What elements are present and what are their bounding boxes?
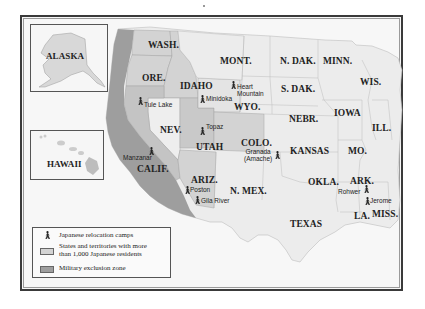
camp-label-minidoka: Minidoka <box>206 96 232 103</box>
state-label-sdak: S. DAK. <box>281 85 315 95</box>
state-label-ore: ORE. <box>142 74 165 84</box>
legend-label-camps: Japanese relocation camps <box>59 232 133 240</box>
legend-label-resident-states: States and territories with more than 1,… <box>59 243 147 258</box>
camp-label-jerome: Jerome <box>370 198 392 205</box>
camp-label-topaz: Topaz <box>206 124 223 131</box>
state-label-la: LA. <box>354 212 370 222</box>
hawaii-label: HAWAII <box>47 160 82 169</box>
camp-label-tule-lake: Tule Lake <box>144 102 172 109</box>
relocation-camp-icon <box>45 231 50 239</box>
state-label-nebr: NEBR. <box>289 115 318 125</box>
dark-gray-swatch <box>40 266 54 273</box>
camp-icon-minidoka <box>200 95 205 103</box>
state-label-utah: UTAH <box>196 143 223 153</box>
camp-label-manzanar: Manzanar <box>123 155 152 162</box>
alaska-label: ALASKA <box>46 52 84 61</box>
state-label-texas: TEXAS <box>290 220 322 230</box>
state-label-wash: WASH. <box>148 41 179 51</box>
state-label-calif: CALIF. <box>137 165 169 175</box>
state-label-idaho: IDAHO <box>180 82 213 92</box>
state-label-ariz: ARIZ. <box>191 176 218 186</box>
map-legend: Japanese relocation camps States and ter… <box>32 227 171 278</box>
camp-icon-tule-lake <box>138 97 143 105</box>
state-label-ark: ARK. <box>350 177 374 187</box>
state-label-okla: OKLA. <box>308 178 339 188</box>
hawaii-inset: HAWAII <box>30 130 104 180</box>
camp-label-mountain: Mountain <box>237 90 264 97</box>
state-label-wyo: WYO. <box>234 103 261 113</box>
light-gray-swatch <box>40 248 54 255</box>
state-label-nev: NEV. <box>160 126 182 136</box>
hawaii-shape <box>31 131 103 179</box>
camp-label-heart-mountain: HeartMountain <box>237 84 264 98</box>
legend-label-resident-states-line2: than 1,000 Japanese residents <box>59 250 142 258</box>
state-label-iowa: IOWA <box>334 109 361 119</box>
state-label-wis: WIS. <box>360 78 381 88</box>
camp-icon-heart-mountain <box>231 81 236 89</box>
state-label-minn: MINN. <box>323 57 352 67</box>
camp-label-poston: Poston <box>190 187 210 194</box>
alaska-inset: ALASKA <box>30 24 108 92</box>
camp-label-gila-river: Gila River <box>201 198 230 205</box>
legend-label-exclusion-zone: Military exclusion zone <box>59 265 125 273</box>
camp-icon-rohwer <box>364 185 369 193</box>
state-label-mont: MONT. <box>220 57 252 67</box>
state-label-kansas: KANSAS <box>290 147 329 157</box>
camp-icon-topaz <box>200 127 205 135</box>
state-label-mo: MO. <box>348 147 367 157</box>
camp-icon-granada <box>275 151 280 159</box>
camp-icon-gila-river <box>195 196 200 204</box>
camp-label-rohwer: Rohwer <box>338 189 360 196</box>
camp-label-granada: Granada(Amache) <box>244 149 272 163</box>
state-label-miss: MISS. <box>372 210 398 220</box>
camp-label-amache: (Amache) <box>244 155 272 162</box>
state-label-nmex: N. MEX. <box>230 187 267 197</box>
state-label-ndak: N. DAK. <box>280 57 316 67</box>
state-label-ill: ILL. <box>372 124 391 134</box>
